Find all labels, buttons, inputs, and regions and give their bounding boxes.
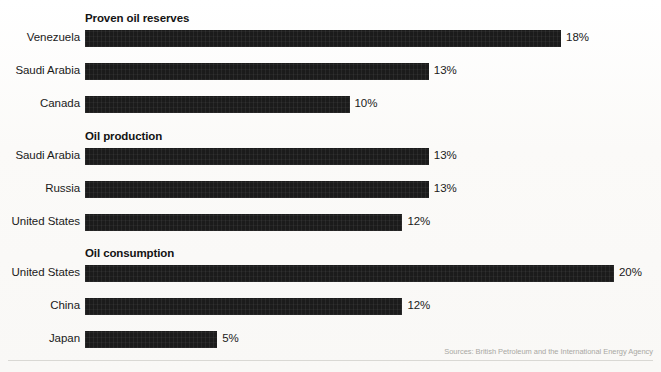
bar-texture [85,30,561,47]
bar-row: Canada10% [0,96,661,113]
bar-row: Venezuela18% [0,30,661,47]
category-label: Venezuela [0,31,80,43]
bar-texture [85,181,429,198]
bar-value-label: 13% [434,182,457,194]
footer-divider [8,360,653,361]
bar [85,331,217,348]
category-label: Saudi Arabia [0,149,80,161]
bar-texture [85,63,429,80]
category-label: Japan [0,332,80,344]
bar-value-label: 10% [355,97,378,109]
source-note: Sources: British Petroleum and the Inter… [444,347,653,356]
bar [85,214,402,231]
bar [85,181,429,198]
bar [85,298,402,315]
category-label: Russia [0,182,80,194]
category-label: Canada [0,97,80,109]
bar-value-label: 13% [434,64,457,76]
bar-texture [85,214,402,231]
category-label: Saudi Arabia [0,64,80,76]
bar-texture [85,331,217,348]
bar-row: Russia13% [0,181,661,198]
bar-row: China12% [0,298,661,315]
bar-texture [85,265,614,282]
bar-value-label: 18% [566,31,589,43]
bar-row: United States20% [0,265,661,282]
bar-texture [85,96,350,113]
category-label: China [0,299,80,311]
bar-value-label: 12% [407,299,430,311]
group-title: Oil consumption [85,247,174,259]
bar-row: Saudi Arabia13% [0,63,661,80]
bar-chart: Proven oil reservesVenezuela18%Saudi Ara… [0,0,661,372]
bar-value-label: 12% [407,215,430,227]
bar-value-label: 5% [222,332,239,344]
bar [85,63,429,80]
bar [85,96,350,113]
bar-value-label: 20% [619,266,642,278]
category-label: United States [0,215,80,227]
bar-row: Saudi Arabia13% [0,148,661,165]
bar-row: United States12% [0,214,661,231]
group-title: Proven oil reserves [85,12,189,24]
bar-value-label: 13% [434,149,457,161]
bar-row: Japan5% [0,331,661,348]
bar [85,148,429,165]
category-label: United States [0,266,80,278]
bar [85,30,561,47]
group-title: Oil production [85,130,162,142]
bar-texture [85,298,402,315]
bar-texture [85,148,429,165]
bar [85,265,614,282]
